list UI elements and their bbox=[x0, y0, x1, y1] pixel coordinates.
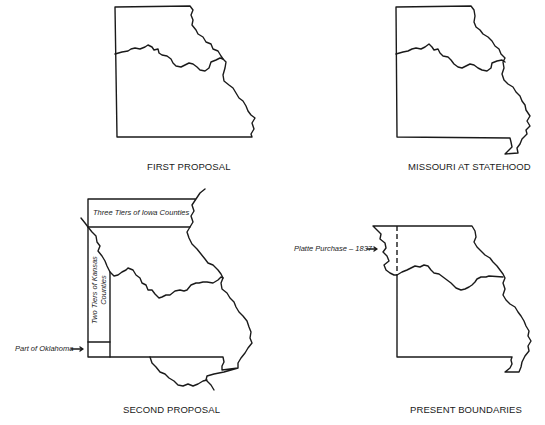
label-two-tiers-kansas-line1: Two Tiers of Kansas bbox=[90, 256, 99, 324]
label-part-of-oklahoma: Part of Oklahoma bbox=[15, 344, 73, 353]
second-proposal-missouri-river bbox=[88, 227, 223, 298]
present-boundaries-map bbox=[367, 226, 531, 372]
caption-present-boundaries: PRESENT BOUNDARIES bbox=[410, 404, 522, 415]
statehood-map bbox=[396, 6, 530, 154]
first-proposal-outline bbox=[115, 6, 255, 137]
missouri-boundary-maps bbox=[0, 0, 545, 425]
present-boundaries-missouri-river bbox=[397, 265, 503, 290]
caption-first-proposal: FIRST PROPOSAL bbox=[147, 161, 231, 172]
second-proposal-outline bbox=[88, 189, 252, 390]
caption-second-proposal: SECOND PROPOSAL bbox=[123, 404, 220, 415]
statehood-outline bbox=[396, 6, 530, 154]
present-boundaries-outline bbox=[373, 226, 531, 372]
caption-missouri-at-statehood: MISSOURI AT STATEHOOD bbox=[408, 161, 531, 172]
statehood-missouri-river bbox=[396, 44, 505, 71]
second-proposal-iowa-tiers-line bbox=[81, 218, 190, 227]
label-two-tiers-kansas: Two Tiers of Kansas Counties bbox=[90, 244, 108, 336]
first-proposal-map bbox=[115, 6, 255, 137]
first-proposal-missouri-river bbox=[115, 45, 223, 71]
label-two-tiers-kansas-line2: Counties bbox=[99, 275, 108, 305]
label-platte-purchase: Platte Purchase – 1837 bbox=[294, 244, 372, 253]
label-three-tiers-iowa: Three Tiers of Iowa Counties bbox=[93, 208, 189, 217]
second-proposal-south-extension bbox=[150, 357, 207, 386]
